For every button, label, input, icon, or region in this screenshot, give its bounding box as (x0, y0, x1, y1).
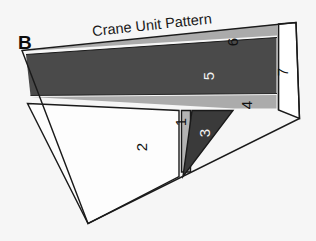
region-label-7: 7 (274, 68, 291, 76)
region-label-1: 1 (172, 118, 189, 126)
figure-container: 1 2 3 4 5 6 7 Crane Unit Pattern B (0, 0, 316, 241)
region-label-2: 2 (133, 143, 150, 151)
region-label-4: 4 (238, 101, 255, 109)
crane-unit-pattern-diagram: 1 2 3 4 5 6 7 Crane Unit Pattern B (0, 0, 316, 241)
region-label-6: 6 (224, 38, 241, 46)
region-label-5: 5 (200, 72, 217, 80)
region-label-3: 3 (196, 129, 213, 137)
panel-letter: B (18, 32, 32, 53)
